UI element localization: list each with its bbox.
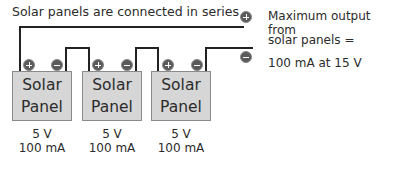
- solar-panel-2: Solar Panel: [82, 71, 142, 121]
- solar-panel-3: Solar Panel: [151, 71, 211, 121]
- panel-2-minus-terminal-icon: [121, 59, 133, 71]
- panel-current: 100 mA: [146, 141, 216, 155]
- panel-3-minus-terminal-icon: [191, 59, 203, 71]
- panel-label: Panel: [13, 96, 71, 118]
- output-text-line-2: solar panels =: [268, 33, 354, 47]
- panel-voltage: 5 V: [146, 127, 216, 141]
- panel-voltage: 5 V: [7, 127, 77, 141]
- panel-label: Panel: [83, 96, 141, 118]
- panel-2-spec: 5 V 100 mA: [77, 127, 147, 155]
- panel-label: Solar: [13, 74, 71, 96]
- panel-3-plus-terminal-icon: [162, 59, 174, 71]
- panel-label: Solar: [152, 74, 210, 96]
- panel-1-plus-terminal-icon: [23, 59, 35, 71]
- panel-3-spec: 5 V 100 mA: [146, 127, 216, 155]
- panel-1-spec: 5 V 100 mA: [7, 127, 77, 155]
- panel-voltage: 5 V: [77, 127, 147, 141]
- solar-panel-1: Solar Panel: [12, 71, 72, 121]
- output-plus-terminal-icon: [240, 11, 252, 23]
- output-text-line-3: 100 mA at 15 V: [268, 56, 362, 70]
- panel-label: Solar: [83, 74, 141, 96]
- output-minus-terminal-icon: [240, 51, 252, 63]
- panel-current: 100 mA: [7, 141, 77, 155]
- panel-label: Panel: [152, 96, 210, 118]
- panel-current: 100 mA: [77, 141, 147, 155]
- panel-2-plus-terminal-icon: [92, 59, 104, 71]
- panel-1-minus-terminal-icon: [51, 59, 63, 71]
